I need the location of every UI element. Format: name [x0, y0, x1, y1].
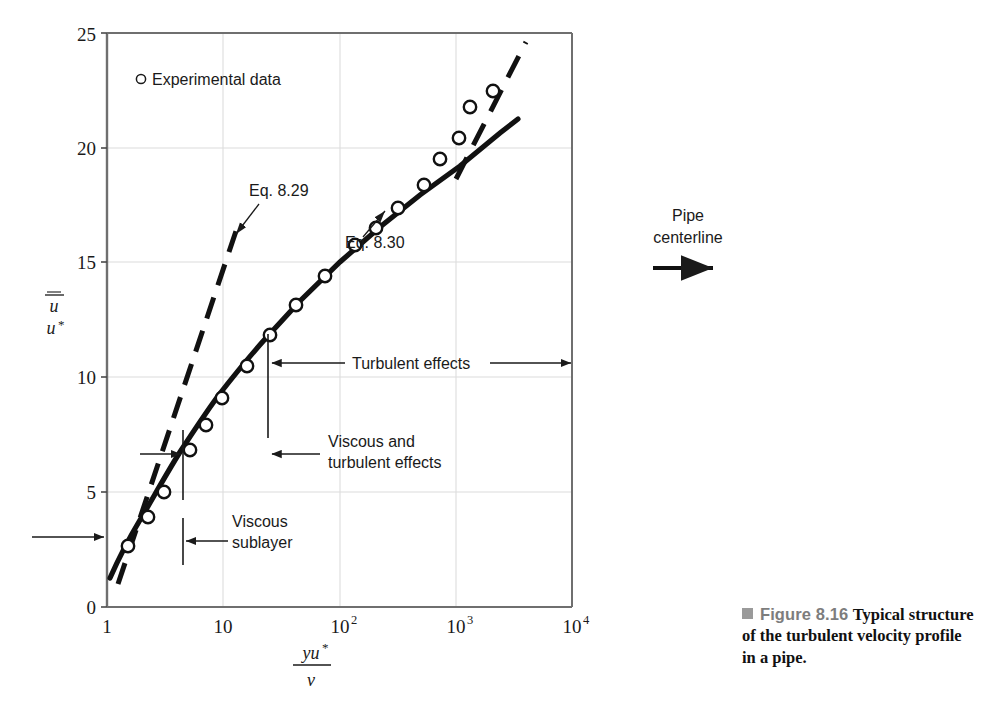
y-tick-label-5: 5 [87, 482, 97, 503]
x-axis-numerator: yu [301, 643, 320, 663]
x-tick-exp-1000: 3 [467, 613, 473, 627]
pipe-centerline-annotation: Pipe centerline [653, 207, 723, 268]
x-axis-numerator-sup: * [322, 640, 329, 655]
data-point [319, 270, 331, 282]
viscous-sublayer-label-line2: sublayer [232, 534, 293, 551]
figure-caption: Figure 8.16 Typical structure of the tur… [742, 604, 978, 668]
x-axis-denominator: v [307, 670, 315, 690]
data-point [158, 486, 170, 498]
caption-square-marker [742, 608, 753, 619]
x-tick-base-10000: 10 [563, 616, 582, 637]
pipe-centerline-label-line2: centerline [653, 229, 722, 246]
viscous-turbulent-label-line1: Viscous and [328, 433, 415, 450]
data-point [453, 132, 465, 144]
legend: Experimental data [136, 71, 281, 88]
data-point [264, 329, 276, 341]
y-tick-label-20: 20 [77, 138, 96, 159]
data-point [216, 392, 228, 404]
caption-figure-number: Figure 8.16 [760, 605, 848, 623]
x-tick-label-1: 1 [102, 616, 112, 637]
data-point [370, 222, 382, 234]
x-tick-label-1000: 10 3 [447, 613, 474, 637]
data-point [487, 85, 499, 97]
open-circle-icon [136, 74, 145, 83]
viscous-sublayer-annotation: Viscous sublayer [183, 513, 293, 565]
mean-velocity-curve [110, 119, 518, 578]
data-point [290, 299, 302, 311]
data-point [200, 419, 212, 431]
legend-label: Experimental data [152, 71, 281, 88]
y-axis-numerator: u [50, 296, 59, 316]
x-tick-label-10000: 10 4 [563, 613, 591, 637]
y-tick-label-15: 15 [77, 252, 96, 273]
x-tick-label-10: 10 [214, 616, 233, 637]
data-point [142, 511, 154, 523]
data-point [122, 540, 134, 552]
y-axis-title: u u * [45, 292, 65, 338]
x-tick-exp-10000: 4 [583, 613, 590, 627]
eq-829-annotation: Eq. 8.29 [236, 182, 309, 234]
y-tick-label-25: 25 [77, 24, 96, 45]
y-axis-denominator-sup: * [58, 317, 65, 332]
gridlines [107, 33, 572, 607]
turbulent-effects-annotation: Turbulent effects [268, 334, 571, 438]
x-tick-exp-100: 2 [351, 613, 357, 627]
x-tick-base-1000: 10 [447, 616, 466, 637]
y-tick-label-0: 0 [87, 597, 97, 618]
y-tick-label-10: 10 [77, 367, 96, 388]
data-points [122, 85, 499, 552]
x-tick-label-100: 10 2 [331, 613, 358, 637]
viscous-turbulent-label-line2: turbulent effects [328, 454, 442, 471]
turbulent-effects-label: Turbulent effects [352, 355, 470, 372]
x-axis-title: yu * v [293, 640, 331, 690]
data-point [241, 360, 253, 372]
eq-829-label: Eq. 8.29 [249, 182, 309, 199]
x-tick-base-100: 10 [331, 616, 350, 637]
figure-container: 0 5 10 15 20 25 1 10 10 2 10 3 10 4 u u … [0, 0, 983, 710]
viscous-sublayer-label-line1: Viscous [232, 513, 288, 530]
data-point [184, 444, 196, 456]
data-point [392, 202, 404, 214]
data-point [434, 153, 446, 165]
pipe-centerline-label-line1: Pipe [672, 207, 704, 224]
data-point [464, 101, 476, 113]
y-axis-denominator: u [47, 318, 56, 338]
eq-830-label: Eq. 8.30 [345, 234, 405, 251]
data-point [418, 179, 430, 191]
